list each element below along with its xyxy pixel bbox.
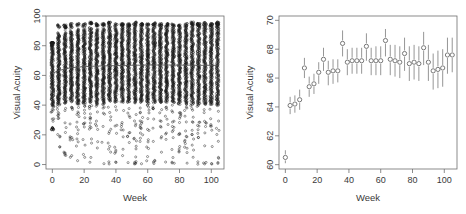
y-tick-label: 64 xyxy=(265,102,275,112)
scatter-point xyxy=(210,118,212,120)
mean-point xyxy=(379,59,383,63)
scatter-point xyxy=(139,140,141,142)
y-axis-title: Visual Acuity xyxy=(11,65,22,119)
scatter-point xyxy=(178,122,180,124)
scatter-point xyxy=(135,114,137,116)
scatter-point xyxy=(186,152,188,154)
scatter-point xyxy=(133,120,135,122)
scatter-point xyxy=(216,133,218,135)
mean-point xyxy=(312,82,316,86)
mean-point xyxy=(293,102,297,106)
scatter-point xyxy=(161,109,163,111)
two-panel-figure: 020406080100020406080100WeekVisual Acuit… xyxy=(0,0,466,214)
scatter-point xyxy=(192,156,194,158)
mean-point xyxy=(398,60,402,64)
scatter-point xyxy=(56,106,58,108)
left-plot-content: 020406080100020406080100WeekVisual Acuit… xyxy=(11,8,224,203)
scatter-point xyxy=(135,156,137,158)
mean-point xyxy=(383,38,387,42)
scatter-point xyxy=(69,156,71,158)
scatter-point xyxy=(128,142,130,144)
x-tick-label: 80 xyxy=(174,175,184,185)
scatter-point xyxy=(110,128,112,130)
mean-point xyxy=(360,59,364,63)
scatter-point xyxy=(147,118,149,120)
scatter-point xyxy=(122,148,124,150)
scatter-point xyxy=(209,108,211,110)
scatter-points xyxy=(50,21,220,165)
scatter-point xyxy=(57,134,59,136)
scatter-point xyxy=(107,106,109,108)
x-tick-label: 60 xyxy=(143,175,153,185)
scatter-point xyxy=(139,107,141,109)
scatter-point xyxy=(172,137,174,139)
scatter-point xyxy=(64,122,66,124)
mean-point xyxy=(422,46,426,50)
panel-right-mean-profile: 020406080100606264666870WeekVisual Acuit… xyxy=(233,0,466,214)
scatter-point xyxy=(135,140,137,142)
scatter-point xyxy=(197,129,199,131)
scatter-point xyxy=(115,109,117,111)
scatter-point xyxy=(116,132,118,134)
scatter-point xyxy=(164,115,166,117)
scatter-point xyxy=(135,148,137,150)
scatter-point xyxy=(84,144,86,146)
scatter-point xyxy=(142,116,144,118)
mean-point xyxy=(450,53,454,57)
mean-point xyxy=(393,59,397,63)
scatter-point xyxy=(77,129,79,131)
x-tick-label: 40 xyxy=(111,175,121,185)
scatter-point xyxy=(139,137,141,139)
scatter-point xyxy=(172,156,174,158)
scatter-point xyxy=(218,129,220,131)
scatter-point xyxy=(204,132,206,134)
scatter-point xyxy=(159,112,161,114)
scatter-point xyxy=(128,108,130,110)
right-plot-svg: 020406080100606264666870WeekVisual Acuit… xyxy=(233,0,466,214)
mean-point xyxy=(369,59,373,63)
scatter-point xyxy=(147,141,149,143)
scatter-point xyxy=(120,129,122,131)
scatter-point xyxy=(204,145,206,147)
mean-point xyxy=(298,98,302,102)
scatter-point xyxy=(186,162,188,164)
mean-point xyxy=(340,41,344,45)
scatter-point xyxy=(108,161,110,163)
scatter-point xyxy=(103,163,105,165)
scatter-point xyxy=(123,109,125,111)
scatter-point xyxy=(147,147,149,149)
scatter-point xyxy=(184,109,186,111)
scatter-point xyxy=(205,122,207,124)
scatter-point xyxy=(191,144,193,146)
scatter-point xyxy=(109,119,111,121)
x-axis-title: Week xyxy=(356,192,380,203)
scatter-point xyxy=(203,109,205,111)
scatter-point xyxy=(84,112,86,114)
scatter-point xyxy=(77,133,79,135)
x-tick-label: 20 xyxy=(312,175,322,185)
scatter-point xyxy=(147,156,149,158)
scatter-point xyxy=(140,163,142,165)
mean-point xyxy=(331,69,335,73)
mean-point xyxy=(302,66,306,70)
scatter-point xyxy=(191,129,193,131)
mean-point xyxy=(426,60,430,64)
scatter-point xyxy=(186,147,188,149)
scatter-point xyxy=(178,148,180,150)
scatter-point xyxy=(203,112,205,114)
scatter-point xyxy=(161,136,163,138)
mean-point xyxy=(436,67,440,71)
scatter-point xyxy=(76,113,78,115)
scatter-point xyxy=(76,126,78,128)
mean-point xyxy=(336,69,340,73)
mean-point xyxy=(374,59,378,63)
x-tick-label: 0 xyxy=(50,175,55,185)
scatter-point xyxy=(122,129,124,131)
x-axis-title: Week xyxy=(123,192,147,203)
scatter-point xyxy=(64,110,66,112)
mean-point xyxy=(441,66,445,70)
mean-point xyxy=(307,85,311,89)
panel-left-raw-scatter: 020406080100020406080100WeekVisual Acuit… xyxy=(0,0,233,214)
scatter-point xyxy=(160,151,162,153)
scatter-point xyxy=(193,149,195,151)
